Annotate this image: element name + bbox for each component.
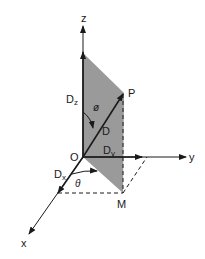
azimuth-angle-label: θ	[75, 178, 81, 189]
point-m-label: M	[117, 198, 126, 210]
z-axis-label: z	[81, 12, 87, 24]
x-axis-label: x	[21, 237, 27, 249]
origin-label: O	[70, 151, 79, 163]
vector-d-label: D	[102, 125, 110, 137]
polar-angle-label: ø	[93, 102, 99, 113]
point-p-label: P	[128, 87, 135, 99]
dz-label: Dz	[66, 93, 78, 107]
dashed-m-to-dy	[123, 157, 147, 193]
vector-diagram: z y x O P M D Dz Dy Dx ø θ	[0, 0, 205, 259]
shaded-plane	[83, 53, 124, 193]
dx-label: Dx	[54, 168, 66, 182]
azimuth-angle-arc	[72, 171, 97, 174]
y-axis-label: y	[189, 151, 195, 163]
